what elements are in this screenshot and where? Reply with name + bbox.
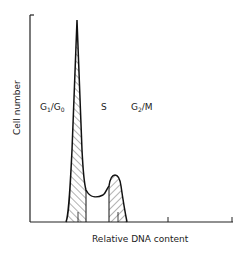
- phase-label-g1-g0: G1/G0: [40, 102, 65, 113]
- axes: [30, 15, 233, 222]
- phase-label-s: S: [101, 102, 107, 112]
- dna-histogram: [0, 0, 244, 253]
- phase-label-g2-m: G2/M: [131, 102, 153, 113]
- x-axis-label: Relative DNA content: [92, 234, 188, 244]
- y-axis-label: Cell number: [12, 80, 22, 135]
